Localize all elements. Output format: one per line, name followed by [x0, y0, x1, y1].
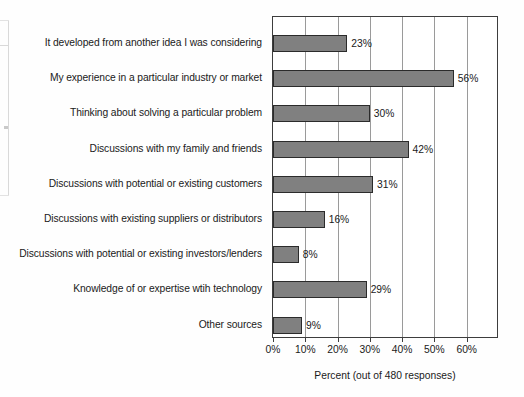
bar: [273, 70, 454, 87]
tick-mark-60: [467, 338, 468, 342]
bar-value-label: 42%: [413, 141, 434, 158]
tick-label-30: 30%: [360, 344, 381, 355]
bar-row: 56%: [273, 70, 499, 87]
bar-value-label: 16%: [329, 211, 350, 228]
bar-row: 16%: [273, 211, 499, 228]
bar: [273, 317, 302, 334]
tick-mark-40: [402, 338, 403, 342]
x-axis-title: Percent (out of 480 responses): [272, 370, 498, 381]
bar-row: 9%: [273, 317, 499, 334]
tick-label-50: 50%: [424, 344, 445, 355]
category-label: My experience in a particular industry o…: [50, 69, 262, 86]
bar-row: 29%: [273, 281, 499, 298]
bar: [273, 176, 373, 193]
category-label: Discussions with my family and friends: [90, 140, 262, 157]
bar-value-label: 30%: [374, 105, 395, 122]
bar: [273, 141, 409, 158]
tick-label-40: 40%: [392, 344, 413, 355]
tick-label-10: 10%: [295, 344, 316, 355]
category-label: It developed from another idea I was con…: [45, 34, 262, 51]
category-label: Discussions with potential or existing c…: [49, 175, 262, 192]
tick-label-0: 0%: [266, 344, 281, 355]
bar: [273, 246, 299, 263]
bar-row: 8%: [273, 246, 499, 263]
bar-row: 31%: [273, 176, 499, 193]
category-axis-labels: It developed from another idea I was con…: [0, 16, 268, 338]
category-label: Other sources: [199, 316, 262, 333]
bar-value-label: 9%: [306, 317, 321, 334]
bar-value-label: 56%: [458, 70, 479, 87]
tick-mark-20: [338, 338, 339, 342]
bar: [273, 35, 347, 52]
bar: [273, 281, 367, 298]
category-label: Discussions with existing suppliers or d…: [44, 210, 262, 227]
bar-value-label: 29%: [371, 281, 392, 298]
bar-value-label: 31%: [377, 176, 398, 193]
bar: [273, 105, 370, 122]
plot-area: 23%56%30%42%31%16%8%29%9%: [272, 16, 498, 338]
tick-mark-10: [305, 338, 306, 342]
bar-row: 42%: [273, 141, 499, 158]
category-label: Knowledge of or expertise wtih technolog…: [73, 280, 262, 297]
tick-label-20: 20%: [327, 344, 348, 355]
category-label: Thinking about solving a particular prob…: [70, 104, 262, 121]
chart-screenshot: It developed from another idea I was con…: [0, 0, 524, 397]
bar-value-label: 23%: [351, 35, 372, 52]
bar-row: 23%: [273, 35, 499, 52]
tick-mark-0: [273, 338, 274, 342]
category-label: Discussions with potential or existing i…: [19, 245, 262, 262]
bar-row: 30%: [273, 105, 499, 122]
tick-label-60: 60%: [456, 344, 477, 355]
bar-value-label: 8%: [303, 246, 318, 263]
tick-mark-50: [434, 338, 435, 342]
tick-mark-30: [370, 338, 371, 342]
bar: [273, 211, 325, 228]
